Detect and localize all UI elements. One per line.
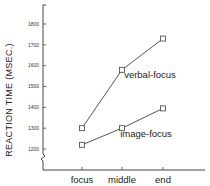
series-label: verbal-focus — [124, 69, 176, 80]
y-tick-label: 1300 — [28, 125, 39, 131]
y-tick-label: 1700 — [28, 42, 39, 48]
y-tick-label: 1800 — [28, 21, 39, 27]
axes — [41, 5, 205, 170]
y-tick-label: 1200 — [28, 146, 39, 152]
x-tick-label-focus: focus — [71, 174, 94, 185]
data-point-square-icon — [161, 36, 166, 41]
line-chart: 1200130014001500160017001800 focusmiddle… — [0, 0, 210, 186]
series-label: image-focus — [120, 128, 172, 139]
axis-break-icon — [41, 154, 45, 161]
data-point-square-icon — [161, 106, 166, 111]
y-tick-label: 1600 — [28, 62, 39, 68]
x-tick-label-middle: middle — [108, 174, 136, 185]
data-point-square-icon — [80, 142, 85, 147]
y-tick-label: 1500 — [28, 83, 39, 89]
data-point-square-icon — [80, 126, 85, 131]
y-axis-label: REACTION TIME (MSEC.) — [4, 43, 14, 157]
y-tick-label: 1400 — [28, 104, 39, 110]
series-verbal-focus: verbal-focus — [80, 36, 177, 131]
x-tick-label-end: end — [155, 174, 171, 185]
series-lines: verbal-focusimage-focus — [80, 36, 177, 147]
